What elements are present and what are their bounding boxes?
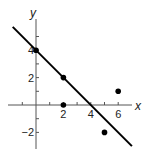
data-point	[115, 89, 121, 95]
x-axis-label: x	[134, 99, 142, 113]
data-point	[33, 47, 39, 53]
x-tick-label: 4	[88, 108, 94, 120]
x-tick-label: 2	[60, 108, 66, 120]
y-tick-label: 2	[28, 72, 34, 84]
y-axis-label: y	[29, 6, 37, 20]
scatter-plot: 24642−2 x y	[0, 0, 151, 160]
data-point	[61, 102, 67, 108]
x-tick-label: 6	[115, 108, 121, 120]
y-tick-label: −2	[21, 126, 34, 138]
data-point	[102, 130, 108, 136]
data-point	[61, 75, 67, 81]
